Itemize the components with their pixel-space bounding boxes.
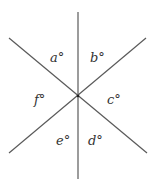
angle-label-a: a° xyxy=(50,51,64,64)
intersection-point xyxy=(77,95,80,98)
angle-label-f: f° xyxy=(34,93,45,106)
angle-label-e: e° xyxy=(56,134,70,147)
angle-label-c: c° xyxy=(107,93,121,106)
lines-canvas xyxy=(0,0,154,182)
angle-label-b: b° xyxy=(90,51,105,64)
angle-label-d: d° xyxy=(88,134,103,147)
intersecting-lines-diagram: a° b° c° d° e° f° xyxy=(0,0,154,182)
